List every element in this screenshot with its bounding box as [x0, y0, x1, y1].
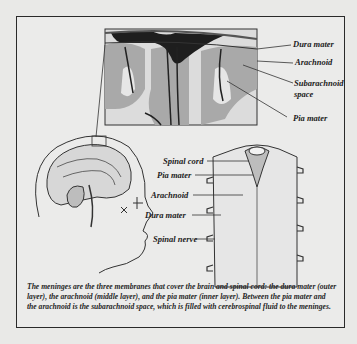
label-subarachnoid-space-line2: space — [294, 90, 313, 99]
label-spinal-cord: Spinal cord — [163, 157, 203, 166]
figure-frame: Dura mater Arachnoid Subarachnoid space … — [16, 16, 345, 328]
zoom-leader-line — [96, 45, 105, 137]
label-subarachnoid-space-line1: Subarachnoid — [294, 79, 344, 88]
figure-caption: The meninges are the three membranes tha… — [27, 282, 337, 312]
label-arachnoid-inset: Arachnoid — [295, 58, 332, 67]
label-dura-mater-spinal: Dura mater — [145, 211, 186, 220]
label-arachnoid-spinal: Arachnoid — [151, 191, 188, 200]
label-spinal-nerve: Spinal nerve — [153, 235, 197, 244]
meninges-cross-section — [105, 29, 257, 125]
spinal-cord-drawing — [207, 145, 303, 287]
label-pia-mater-spinal: Pia mater — [157, 171, 191, 180]
label-dura-mater-inset: Dura mater — [293, 40, 334, 49]
label-pia-mater-inset: Pia mater — [293, 114, 327, 123]
head-with-brain — [36, 136, 153, 273]
